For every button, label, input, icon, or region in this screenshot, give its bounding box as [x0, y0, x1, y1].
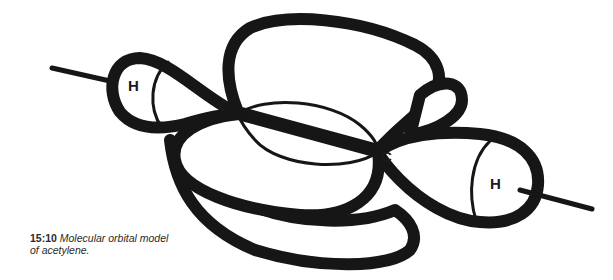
caption-number: 15:10	[30, 232, 57, 244]
atom-label-h-left: H	[128, 77, 139, 94]
caption-text-line1: Molecular orbital model	[60, 232, 169, 244]
left-axis-stick	[52, 68, 110, 81]
atom-label-h-right: H	[490, 175, 501, 192]
figure-caption: 15:10 Molecular orbital model of acetyle…	[30, 232, 210, 256]
atom-label-c-right: C	[381, 148, 392, 165]
atom-label-c-left: C	[219, 97, 230, 114]
caption-text-line2: of acetylene.	[30, 244, 210, 256]
